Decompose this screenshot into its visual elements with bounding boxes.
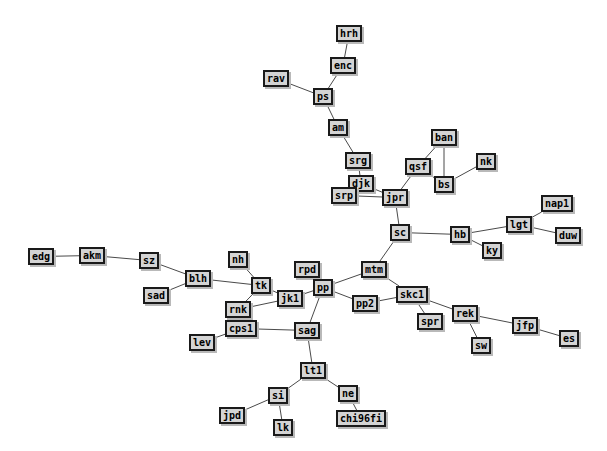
graph-node-nap1[interactable]: nap1: [541, 195, 573, 212]
network-graph-canvas: hrhencravpsambansrgqsfnkdjkbssrpjprnap1l…: [0, 0, 607, 451]
graph-node-sag[interactable]: sag: [294, 322, 320, 339]
graph-node-rav[interactable]: rav: [263, 70, 289, 87]
graph-node-skc1[interactable]: skc1: [396, 286, 428, 303]
graph-node-mtm[interactable]: mtm: [361, 261, 387, 278]
graph-node-label: jk1: [281, 293, 299, 304]
graph-node-akm[interactable]: akm: [79, 247, 105, 264]
graph-node-label: nap1: [545, 198, 569, 209]
graph-node-label: lk: [277, 422, 289, 433]
graph-node-ne[interactable]: ne: [338, 385, 358, 402]
graph-node-label: sad: [147, 290, 165, 301]
graph-node-label: mtm: [365, 264, 383, 275]
graph-node-label: ps: [317, 91, 329, 102]
graph-node-rpd[interactable]: rpd: [294, 261, 320, 278]
graph-node-ky[interactable]: ky: [482, 242, 502, 259]
graph-node-label: pp2: [356, 298, 374, 309]
graph-node-label: tk: [255, 280, 267, 291]
graph-node-lk[interactable]: lk: [273, 419, 293, 436]
graph-node-srp[interactable]: srp: [331, 187, 357, 204]
graph-node-label: jfp: [516, 320, 534, 331]
graph-node-edg[interactable]: edg: [28, 248, 54, 265]
graph-node-label: duw: [559, 230, 577, 241]
graph-node-label: spr: [421, 316, 439, 327]
graph-node-label: nh: [232, 254, 244, 265]
graph-node-label: rpd: [298, 264, 316, 275]
graph-node-label: srp: [335, 190, 353, 201]
graph-node-chi96fi[interactable]: chi96fi: [336, 410, 386, 427]
graph-node-label: sw: [475, 340, 487, 351]
graph-node-jpd[interactable]: jpd: [219, 407, 245, 424]
graph-node-blh[interactable]: blh: [185, 270, 211, 287]
graph-node-cps1[interactable]: cps1: [225, 320, 257, 337]
graph-node-sad[interactable]: sad: [143, 287, 169, 304]
graph-node-spr[interactable]: spr: [417, 313, 443, 330]
graph-node-lgt[interactable]: lgt: [506, 216, 532, 233]
graph-node-label: edg: [32, 251, 50, 262]
graph-node-label: blh: [189, 273, 207, 284]
graph-node-label: ky: [486, 245, 498, 256]
graph-node-pp2[interactable]: pp2: [352, 295, 378, 312]
graph-node-label: jpr: [386, 192, 404, 203]
graph-node-label: pp: [317, 282, 329, 293]
graph-node-label: ban: [435, 132, 453, 143]
graph-node-label: lev: [193, 337, 211, 348]
graph-node-qsf[interactable]: qsf: [405, 158, 431, 175]
graph-node-rek[interactable]: rek: [452, 305, 478, 322]
graph-node-label: bs: [438, 179, 450, 190]
graph-node-label: sag: [298, 325, 316, 336]
graph-node-lt1[interactable]: lt1: [300, 362, 326, 379]
graph-node-pp[interactable]: pp: [313, 279, 333, 296]
graph-node-tk[interactable]: tk: [251, 277, 271, 294]
graph-node-lev[interactable]: lev: [189, 334, 215, 351]
graph-node-nh[interactable]: nh: [228, 251, 248, 268]
graph-node-layer: hrhencravpsambansrgqsfnkdjkbssrpjprnap1l…: [0, 0, 607, 451]
graph-node-nk[interactable]: nk: [476, 153, 496, 170]
graph-node-label: hb: [454, 229, 466, 240]
graph-node-sc[interactable]: sc: [390, 224, 410, 241]
graph-node-label: hrh: [340, 28, 358, 39]
graph-node-label: sc: [394, 227, 406, 238]
graph-node-jfp[interactable]: jfp: [512, 317, 538, 334]
graph-node-am[interactable]: am: [328, 119, 348, 136]
graph-node-label: enc: [334, 60, 352, 71]
graph-node-jk1[interactable]: jk1: [277, 290, 303, 307]
graph-node-label: es: [563, 333, 575, 344]
graph-node-si[interactable]: si: [268, 387, 288, 404]
graph-node-label: ne: [342, 388, 354, 399]
graph-node-jpr[interactable]: jpr: [382, 189, 408, 206]
graph-node-label: sz: [143, 255, 155, 266]
graph-node-label: qsf: [409, 161, 427, 172]
graph-node-label: srg: [349, 155, 367, 166]
graph-node-duw[interactable]: duw: [555, 227, 581, 244]
graph-node-label: rnk: [229, 304, 247, 315]
graph-node-ban[interactable]: ban: [431, 129, 457, 146]
graph-node-label: cps1: [229, 323, 253, 334]
graph-node-sz[interactable]: sz: [139, 252, 159, 269]
graph-node-srg[interactable]: srg: [345, 152, 371, 169]
graph-node-bs[interactable]: bs: [434, 176, 454, 193]
graph-node-label: rav: [267, 73, 285, 84]
graph-node-label: si: [272, 390, 284, 401]
graph-node-label: skc1: [400, 289, 424, 300]
graph-node-label: am: [332, 122, 344, 133]
graph-node-label: jpd: [223, 410, 241, 421]
graph-node-hrh[interactable]: hrh: [336, 25, 362, 42]
graph-node-label: rek: [456, 308, 474, 319]
graph-node-hb[interactable]: hb: [450, 226, 470, 243]
graph-node-rnk[interactable]: rnk: [225, 301, 251, 318]
graph-node-label: chi96fi: [340, 413, 382, 424]
graph-node-sw[interactable]: sw: [471, 337, 491, 354]
graph-node-label: lt1: [304, 365, 322, 376]
graph-node-ps[interactable]: ps: [313, 88, 333, 105]
graph-node-label: akm: [83, 250, 101, 261]
graph-node-enc[interactable]: enc: [330, 57, 356, 74]
graph-node-es[interactable]: es: [559, 330, 579, 347]
graph-node-label: lgt: [510, 219, 528, 230]
graph-node-label: nk: [480, 156, 492, 167]
